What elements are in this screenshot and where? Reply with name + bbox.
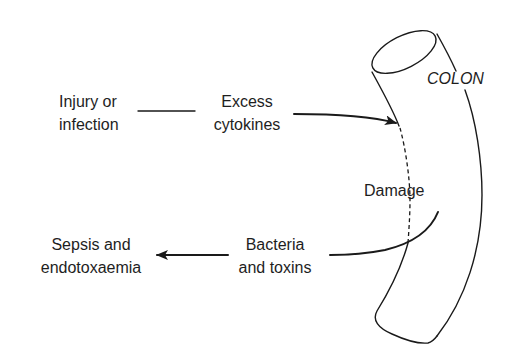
node-cytokines-line2: cytokines (214, 116, 281, 133)
colon-right-wall-upper (437, 34, 456, 71)
node-injury-line2: infection (59, 116, 119, 133)
colon-left-wall-lower (375, 243, 437, 343)
colon-label: COLON (427, 70, 484, 87)
node-sepsis-line2: endotoxaemia (41, 259, 142, 276)
edge-cytokines-to-colon-arrow (294, 114, 396, 123)
node-sepsis-line1: Sepsis and (51, 236, 130, 253)
node-injury-line1: Injury or (59, 93, 117, 110)
edge-colon-to-bacteria (330, 212, 438, 255)
node-cytokines-line1: Excess (221, 93, 273, 110)
node-bacteria-line1: Bacteria (246, 236, 305, 253)
node-bacteria-line2: and toxins (239, 259, 312, 276)
node-damage: Damage (364, 182, 425, 199)
colon-right-wall-lower (437, 90, 482, 336)
node-sepsis: Sepsis and endotoxaemia (41, 236, 142, 276)
node-injury: Injury or infection (59, 93, 119, 133)
diagram-canvas: COLON Injury or infection Excess cytokin… (0, 0, 515, 350)
node-cytokines: Excess cytokines (214, 93, 281, 133)
node-bacteria: Bacteria and toxins (239, 236, 312, 276)
